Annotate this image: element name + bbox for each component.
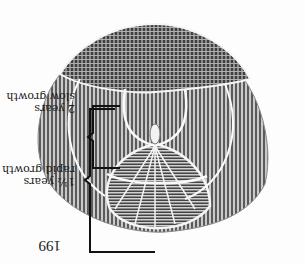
annotation-period: 2 years	[6, 102, 75, 114]
book-page: 2 years slow growth 1½ years rapid growt…	[0, 0, 305, 264]
scale-focus	[150, 124, 160, 144]
annotation-rapid-growth: 1½ years rapid growth	[2, 163, 75, 187]
annotation-period: 1½ years	[2, 175, 75, 187]
annotation-description: slow growth	[6, 90, 75, 102]
scale-posterior-field	[60, 24, 250, 92]
page-number: 199	[39, 237, 62, 254]
fish-scale-illustration	[0, 0, 305, 264]
annotation-description: rapid growth	[2, 163, 75, 175]
annotation-slow-growth: 2 years slow growth	[6, 90, 75, 114]
